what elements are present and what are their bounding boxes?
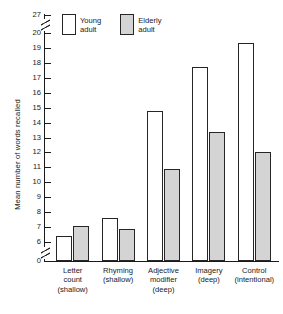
y-tick-mark-17	[44, 78, 51, 79]
y-tick-mark-13	[44, 138, 51, 139]
y-tick-mark-8	[44, 212, 51, 213]
y-tick-label-7: 7	[19, 223, 44, 231]
x-axis-label-3-line2: modifier	[141, 275, 186, 284]
x-axis-label-1-line2: count	[50, 275, 95, 284]
y-tick-mark-16	[44, 93, 51, 94]
x-axis-line	[44, 261, 279, 262]
y-tick-mark-6	[44, 242, 51, 243]
axis-break-lower-icon	[39, 246, 53, 260]
y-tick-label-13: 13	[19, 134, 44, 142]
bar-young-adult-2	[102, 218, 118, 261]
x-axis-label-2: Rhyming(shallow)	[95, 266, 140, 285]
x-axis-label-1-line3: (shallow)	[50, 285, 95, 294]
bar-elderly-adult-4	[209, 132, 225, 261]
x-axis-label-5: Control(intentional)	[232, 266, 277, 285]
y-tick-label-19: 19	[19, 44, 44, 52]
x-axis-label-2-line1: Rhyming	[95, 266, 140, 275]
y-tick-mark-14	[44, 123, 51, 124]
bar-elderly-adult-1	[73, 226, 89, 261]
x-axis-label-2-line2: (shallow)	[95, 275, 140, 284]
x-axis-label-5-line1: Control	[232, 266, 277, 275]
y-tick-label-8: 8	[19, 209, 44, 217]
bar-elderly-adult-5	[255, 152, 271, 261]
y-tick-mark-10	[44, 182, 51, 183]
y-tick-mark-7	[44, 227, 51, 228]
y-tick-label-9: 9	[19, 194, 44, 202]
bar-young-adult-5	[238, 43, 254, 261]
y-tick-mark-18	[44, 63, 51, 64]
y-tick-label-18: 18	[19, 59, 44, 67]
y-tick-mark-20	[44, 33, 51, 34]
plot-area: 27201918171615141312111098760 Lettercoun…	[44, 14, 279, 262]
bar-young-adult-4	[192, 67, 208, 261]
bar-young-adult-3	[147, 111, 163, 261]
x-axis-label-4-line2: (deep)	[186, 275, 231, 284]
x-axis-label-3-line3: (deep)	[141, 285, 186, 294]
axis-break-upper-icon	[39, 18, 53, 32]
y-tick-mark-19	[44, 48, 51, 49]
y-tick-mark-27	[44, 15, 51, 16]
x-axis-label-3-line1: Adjective	[141, 266, 186, 275]
y-tick-mark-0	[44, 261, 51, 262]
y-tick-label-14: 14	[19, 119, 44, 127]
x-axis-label-3: Adjectivemodifier(deep)	[141, 266, 186, 294]
x-axis-label-4-line1: Imagery	[186, 266, 231, 275]
bar-young-adult-1	[56, 236, 72, 261]
y-tick-label-16: 16	[19, 89, 44, 97]
x-axis-label-1-line1: Letter	[50, 266, 95, 275]
y-tick-label-10: 10	[19, 179, 44, 187]
bar-chart: Mean number of words recalled Young adul…	[0, 0, 283, 314]
y-tick-mark-15	[44, 108, 51, 109]
y-tick-mark-11	[44, 167, 51, 168]
y-tick-label-12: 12	[19, 149, 44, 157]
y-tick-mark-9	[44, 197, 51, 198]
x-axis-label-4: Imagery(deep)	[186, 266, 231, 285]
y-tick-label-15: 15	[19, 104, 44, 112]
x-axis-label-5-line2: (intentional)	[232, 275, 277, 284]
y-tick-label-11: 11	[19, 164, 44, 172]
x-axis-label-1: Lettercount(shallow)	[50, 266, 95, 294]
bar-elderly-adult-3	[164, 169, 180, 261]
y-tick-mark-12	[44, 152, 51, 153]
y-tick-label-17: 17	[19, 74, 44, 82]
bar-elderly-adult-2	[119, 229, 135, 261]
